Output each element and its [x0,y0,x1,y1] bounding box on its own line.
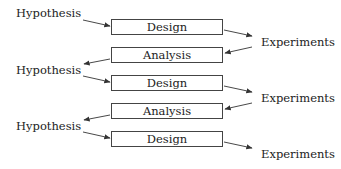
arrow-hypothesis-to-design-1 [83,20,110,26]
arrow-experiments-to-analysis-1 [225,47,252,53]
experiments-label-3: Experiments [261,147,335,161]
arrow-design-to-experiments-1 [224,30,252,36]
analysis-box-2: Analysis [111,103,223,119]
design-box-1: Design [111,19,223,35]
arrow-experiments-to-analysis-2 [225,103,252,109]
experiments-label-1: Experiments [261,35,335,49]
hypothesis-label-1: Hypothesis [16,6,81,20]
design-box-3: Design [111,131,223,147]
hypothesis-label-2: Hypothesis [16,63,81,77]
design-box-2: Design [111,75,223,91]
arrow-analysis-to-hypothesis-2 [84,59,110,64]
arrow-hypothesis-to-design-3 [83,132,110,138]
analysis-box-1: Analysis [111,47,223,63]
arrow-design-to-experiments-3 [224,142,252,148]
arrow-design-to-experiments-2 [224,86,252,92]
experiments-label-2: Experiments [261,91,335,105]
hypothesis-label-3: Hypothesis [16,119,81,133]
arrow-hypothesis-to-design-2 [83,76,110,82]
arrow-analysis-to-hypothesis-3 [84,115,110,120]
